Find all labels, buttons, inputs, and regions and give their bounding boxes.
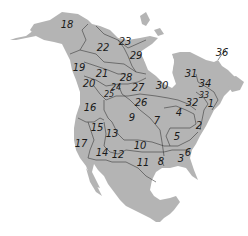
region-label-13: 13 (106, 129, 119, 139)
region-label-10: 10 (134, 141, 147, 151)
region-label-22: 22 (97, 43, 110, 53)
region-label-30: 30 (156, 81, 169, 91)
region-label-16: 16 (84, 103, 97, 113)
region-label-28: 28 (120, 73, 133, 83)
region-label-27: 27 (132, 83, 145, 93)
region-label-2: 2 (196, 121, 202, 131)
region-label-8: 8 (158, 157, 164, 167)
baja-california (86, 168, 102, 196)
region-label-15: 15 (91, 123, 104, 133)
region-label-31: 31 (185, 69, 198, 79)
region-label-25: 25 (104, 91, 114, 99)
region-map: 1234567891011121314151617181920212223242… (0, 0, 248, 236)
region-label-1: 1 (208, 99, 214, 109)
aleutian-islands (10, 30, 36, 40)
region-label-17: 17 (75, 139, 88, 149)
region-label-11: 11 (137, 158, 150, 168)
region-label-12: 12 (112, 150, 125, 160)
region-label-6: 6 (185, 148, 191, 158)
region-label-19: 19 (73, 63, 86, 73)
region-label-5: 5 (174, 132, 180, 142)
region-label-29: 29 (130, 51, 143, 61)
arctic-islands (140, 12, 164, 36)
region-label-33: 33 (199, 92, 209, 100)
region-label-9: 9 (129, 113, 135, 123)
region-label-21: 21 (96, 69, 109, 79)
region-label-36: 36 (216, 48, 229, 58)
region-label-32: 32 (186, 98, 199, 108)
region-label-7: 7 (154, 116, 160, 126)
region-label-20: 20 (83, 79, 96, 89)
region-label-26: 26 (135, 98, 148, 108)
region-label-23: 23 (119, 37, 132, 47)
region-label-14: 14 (96, 148, 109, 158)
region-label-18: 18 (61, 20, 74, 30)
region-label-34: 34 (199, 79, 212, 89)
region-label-4: 4 (176, 108, 182, 118)
region-label-3: 3 (178, 154, 184, 164)
